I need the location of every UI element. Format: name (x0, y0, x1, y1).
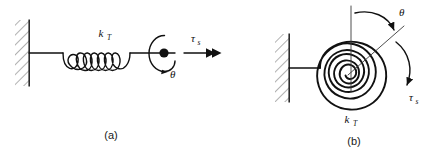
torque-label-a: τ s (191, 32, 201, 47)
theta-arc-arrow-b (355, 12, 394, 30)
torque-label-b: τ s (409, 91, 419, 106)
fixed-wall-hatching-a (15, 20, 29, 87)
angle-label-a: θ (170, 68, 176, 80)
stiffness-label-a: k T (99, 27, 112, 42)
hub-dot-a (159, 48, 168, 57)
panel-caption-a: (a) (104, 129, 117, 141)
helical-coil-spring (63, 53, 130, 71)
stiffness-symbol-b: k (345, 113, 351, 125)
torque-subscript-a: s (198, 38, 201, 47)
stiffness-subscript-a: T (107, 33, 112, 42)
panel-b: θ τ s k T (b) (275, 6, 419, 147)
torque-symbol-b: τ (409, 91, 414, 103)
spiral-spring (317, 42, 386, 110)
panel-caption-b: (b) (347, 135, 360, 147)
figure-canvas: k T θ τ s (a) (0, 0, 440, 153)
torque-symbol-a: τ (191, 32, 196, 44)
torsional-spring-figure: k T θ τ s (a) (0, 0, 440, 153)
torque-double-arrow-a (184, 48, 222, 58)
panel-a: k T θ τ s (a) (15, 20, 222, 142)
torque-arc-arrow-b (396, 42, 410, 85)
stiffness-label-b: k T (345, 113, 358, 128)
stiffness-subscript-b: T (353, 119, 358, 128)
stiffness-symbol-a: k (99, 27, 105, 39)
torque-subscript-b: s (416, 97, 419, 106)
angle-label-b: θ (399, 6, 405, 18)
fixed-wall-hatching-b (275, 34, 289, 103)
